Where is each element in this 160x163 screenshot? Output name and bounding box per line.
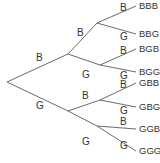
outcome-ggg: GGG xyxy=(139,145,160,156)
branch-label-gbb: B xyxy=(120,79,127,90)
edge-bg xyxy=(68,54,100,65)
branch-label-gb: B xyxy=(82,90,89,101)
branch-label-ggb: B xyxy=(120,116,127,127)
edge-leaf-gbb xyxy=(100,83,136,100)
outcome-ggb: GGB xyxy=(139,123,160,134)
branch-label-bb: B xyxy=(77,27,84,38)
branch-label-bbg: G xyxy=(120,31,128,42)
edge-gb xyxy=(68,100,100,111)
branch-label-bg: G xyxy=(82,69,90,80)
branch-label-ggg: G xyxy=(120,140,128,151)
edge-leaf-gbg xyxy=(100,100,136,107)
edge-gg xyxy=(68,111,97,126)
branch-label-bbb: B xyxy=(120,2,127,13)
edge-leaf-bgb xyxy=(100,49,136,65)
edge-leaf-ggb xyxy=(97,126,136,129)
edge-leaf-bbg xyxy=(97,23,136,34)
probability-tree-diagram: BGBGBGBBBBGBBGBBGBGBGGBGBBGGBGBGGBGGGG xyxy=(0,0,160,163)
outcome-bbg: BBG xyxy=(139,28,159,39)
branch-label-gbg: G xyxy=(120,105,128,116)
branch-label-bgb: B xyxy=(120,45,127,56)
edge-leaf-bbb xyxy=(97,6,136,23)
tree-edges xyxy=(7,6,136,151)
branch-label-b: B xyxy=(36,52,43,63)
outcome-bgb: BGB xyxy=(139,43,159,54)
outcome-gbb: GBB xyxy=(139,77,159,88)
outcome-bbb: BBB xyxy=(139,0,158,11)
outcome-bgg: BGG xyxy=(139,66,160,77)
edge-leaf-ggg xyxy=(97,126,136,151)
edge-leaf-bgg xyxy=(100,65,136,72)
outcome-gbg: GBG xyxy=(139,101,160,112)
branch-label-g: G xyxy=(36,100,44,111)
branch-label-gg: G xyxy=(82,136,90,147)
